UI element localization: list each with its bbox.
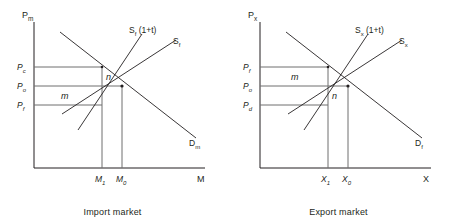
price-label-po: Po <box>243 81 253 93</box>
panel-caption-import: Import market <box>0 207 225 217</box>
quantity-label-m1: M1 <box>95 174 105 186</box>
panel-caption-export: Export market <box>226 207 451 217</box>
curve-supply-export <box>288 40 402 114</box>
quantity-label-m0: M0 <box>116 174 127 186</box>
curve-supply-foreign <box>62 40 176 114</box>
curve-label-supply-foreign: Sf <box>173 36 181 48</box>
quantity-label-x0: X0 <box>341 174 352 186</box>
area-marker-n: n <box>106 72 111 82</box>
price-label-pc: Pc <box>17 62 26 74</box>
curve-label-demand-foreign: Df <box>415 138 423 150</box>
curve-demand-import <box>60 32 196 138</box>
curve-label-demand-import: Dm <box>189 138 200 150</box>
export-market-plot: Px X Pf Po Pd X1 X0 Sx (1+t) Sx Df m n <box>226 0 451 200</box>
import-market-plot: Pm M Pc Po Pf M1 M0 Sf (1+t) Sf Dm m n <box>0 0 225 200</box>
price-label-po: Po <box>17 81 27 93</box>
price-label-pf: Pf <box>17 100 26 112</box>
curve-supply-with-tariff <box>304 34 368 130</box>
price-label-pd: Pd <box>243 100 253 112</box>
x-axis-label: M <box>197 174 205 184</box>
equilibrium-point-free-trade <box>346 84 349 87</box>
area-marker-n: n <box>332 91 337 101</box>
curve-demand-foreign <box>286 32 422 138</box>
curve-label-supply-with-tariff: Sf (1+t) <box>129 25 157 37</box>
curve-supply-with-tariff <box>78 34 142 130</box>
price-label-pf: Pf <box>243 62 252 74</box>
y-axis-label: Px <box>248 10 258 22</box>
curve-label-supply-export: Sx <box>399 36 408 48</box>
y-axis-label: Pm <box>22 10 33 22</box>
area-marker-m: m <box>61 91 69 101</box>
quantity-label-x1: X1 <box>320 174 330 186</box>
equilibrium-point-tariff <box>327 66 330 69</box>
curve-label-supply-with-tariff: Sx (1+t) <box>355 25 384 37</box>
x-axis-label: X <box>423 174 429 184</box>
area-marker-m: m <box>291 72 299 82</box>
panel-import-market: Pm M Pc Po Pf M1 M0 Sf (1+t) Sf Dm m n I… <box>0 0 225 223</box>
equilibrium-point-tariff <box>101 66 104 69</box>
two-panel-trade-diagram: Pm M Pc Po Pf M1 M0 Sf (1+t) Sf Dm m n I… <box>0 0 451 223</box>
equilibrium-point-free-trade <box>120 84 123 87</box>
panel-export-market: Px X Pf Po Pd X1 X0 Sx (1+t) Sx Df m n E… <box>226 0 451 223</box>
